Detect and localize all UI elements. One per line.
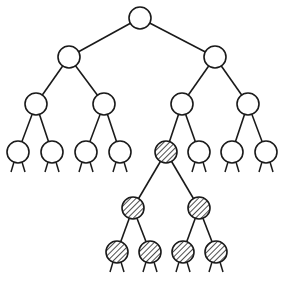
tree-node	[255, 141, 277, 163]
leaf-stub	[110, 262, 113, 272]
hatched-tree-node	[172, 241, 194, 263]
tree-edge	[140, 18, 215, 57]
hatched-tree-node	[139, 241, 161, 263]
leaf-stub	[113, 162, 116, 172]
tree-nodes	[7, 7, 277, 263]
leaf-stub	[187, 262, 190, 272]
leaf-stub	[79, 162, 82, 172]
hatched-tree-node	[122, 197, 144, 219]
hatched-tree-node	[155, 141, 177, 163]
hatched-tree-node	[205, 241, 227, 263]
tree-diagram	[0, 0, 282, 281]
hatched-tree-node	[106, 241, 128, 263]
leaf-stub	[270, 162, 273, 172]
leaf-stub	[225, 162, 228, 172]
leaf-stub	[154, 262, 157, 272]
tree-node	[129, 7, 151, 29]
leaf-stub	[90, 162, 93, 172]
tree-node	[41, 141, 63, 163]
leaf-stub	[121, 262, 124, 272]
tree-node	[7, 141, 29, 163]
tree-node	[204, 46, 226, 68]
tree-node	[93, 93, 115, 115]
tree-node	[109, 141, 131, 163]
tree-node	[75, 141, 97, 163]
tree-node	[188, 141, 210, 163]
leaf-stub	[203, 162, 206, 172]
leaf-stub	[176, 262, 179, 272]
tree-node	[237, 93, 259, 115]
leaf-stub	[11, 162, 14, 172]
leaf-stub	[124, 162, 127, 172]
leaf-stub	[45, 162, 48, 172]
tree-edge	[69, 18, 140, 57]
leaf-stub	[192, 162, 195, 172]
leaf-stub	[143, 262, 146, 272]
tree-edges	[18, 18, 266, 252]
tree-node	[171, 93, 193, 115]
leaf-stub	[22, 162, 25, 172]
leaf-stub	[56, 162, 59, 172]
tree-node	[221, 141, 243, 163]
leaf-stub	[259, 162, 262, 172]
hatched-tree-node	[188, 197, 210, 219]
leaf-stub	[220, 262, 223, 272]
tree-node	[58, 46, 80, 68]
leaf-stub	[209, 262, 212, 272]
tree-node	[25, 93, 47, 115]
leaf-stub	[236, 162, 239, 172]
